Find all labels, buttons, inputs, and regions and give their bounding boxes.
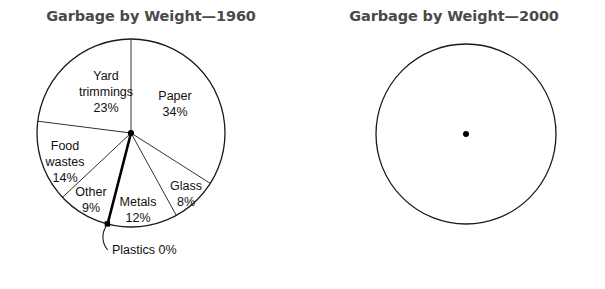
pie-value-paper: 34% (162, 105, 187, 119)
pie-label-yard-line2: trimmings (79, 85, 133, 99)
pie-label-food-line1: Food (51, 139, 80, 153)
pie-label-glass: Glass (170, 179, 202, 193)
pie-value-metals: 12% (125, 211, 150, 225)
pie-value-glass: 8% (177, 195, 195, 209)
pie-chart-1960: Paper 34% Glass 8% Metals 12% Other 9% F… (0, 0, 302, 289)
pie-callout-plastics: Plastics 0% (112, 243, 177, 257)
pie-label-food-line2: wastes (45, 155, 85, 169)
pie-label-yard-line1: Yard (93, 69, 119, 83)
plastics-leader-line (103, 227, 108, 250)
pie-label-other: Other (75, 185, 106, 199)
chart-panel-2000: Garbage by Weight—2000 (303, 0, 605, 289)
pie-value-other: 9% (82, 201, 100, 215)
pie-center-dot-2000 (463, 131, 469, 137)
pie-label-paper: Paper (158, 89, 191, 103)
pie-divider-paper-glass (131, 133, 210, 183)
pie-chart-2000 (303, 0, 605, 289)
pie-label-metals: Metals (120, 195, 157, 209)
pie-center-dot-1960 (128, 130, 134, 136)
pie-value-food: 14% (52, 171, 77, 185)
plastics-arrow-marker (105, 221, 110, 226)
chart-panel-1960: Garbage by Weight—1960 (0, 0, 302, 289)
pie-divider-food-yard (38, 121, 131, 133)
figure-canvas: Garbage by Weight—1960 (0, 0, 605, 289)
pie-value-yard: 23% (93, 101, 118, 115)
